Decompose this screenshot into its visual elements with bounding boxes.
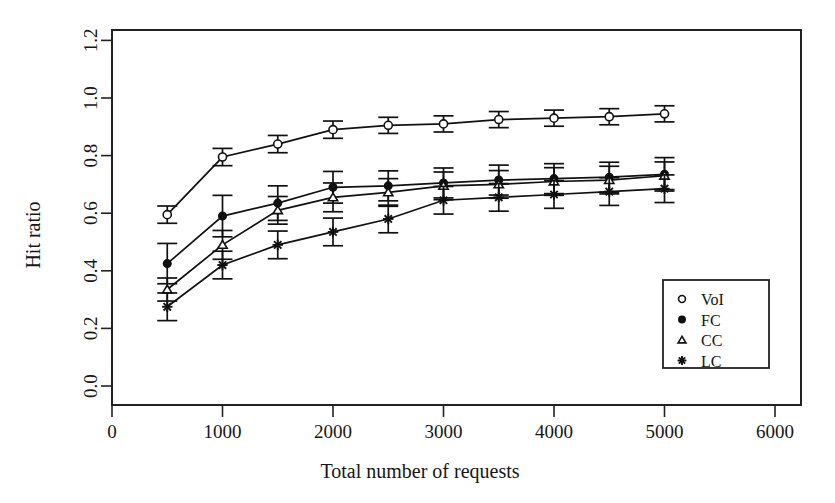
data-point-marker-open-circle <box>660 110 668 118</box>
x-tick-label: 4000 <box>535 421 573 442</box>
legend-label: VoI <box>701 291 724 308</box>
y-tick-label: 1.2 <box>80 29 101 53</box>
y-tick-label: 1.0 <box>80 86 101 110</box>
data-point-marker-open-circle <box>495 116 503 124</box>
data-point-marker-asterisk <box>273 240 283 250</box>
data-point-marker-open-circle <box>679 296 686 303</box>
x-tick-label: 0 <box>107 421 117 442</box>
data-point-marker-asterisk <box>659 184 669 194</box>
hit-ratio-line-chart: 0100020003000400050006000 0.00.20.40.60.… <box>0 0 835 503</box>
data-point-marker-asterisk <box>162 302 172 312</box>
data-point-marker-filled-circle <box>219 212 226 219</box>
data-point-marker-open-circle <box>550 114 558 122</box>
y-tick-label: 0.0 <box>80 374 101 398</box>
data-point-marker-open-circle <box>163 211 171 219</box>
x-tick-label: 2000 <box>314 421 352 442</box>
data-point-marker-open-circle <box>274 140 282 148</box>
data-point-marker-open-circle <box>329 126 337 134</box>
x-tick-label: 5000 <box>646 421 684 442</box>
data-point-marker-open-circle <box>218 153 226 161</box>
data-point-marker-asterisk <box>328 227 338 237</box>
chart-background <box>0 0 835 503</box>
chart-legend[interactable]: VoIFCCCLC <box>663 280 769 370</box>
data-point-marker-asterisk <box>549 189 559 199</box>
chart-figure: 0100020003000400050006000 0.00.20.40.60.… <box>0 0 835 503</box>
x-tick-label: 6000 <box>756 421 794 442</box>
y-tick-label: 0.4 <box>80 258 101 282</box>
legend-label: FC <box>701 312 721 329</box>
y-tick-label: 0.2 <box>80 317 101 341</box>
data-point-marker-asterisk <box>494 192 504 202</box>
data-point-marker-open-circle <box>384 121 392 129</box>
y-tick-label: 0.6 <box>80 201 101 225</box>
x-axis-title: Total number of requests <box>320 460 519 483</box>
y-tick-label: 0.8 <box>80 144 101 168</box>
data-point-marker-filled-circle <box>164 260 171 267</box>
x-tick-label: 3000 <box>425 421 463 442</box>
y-axis-title: Hit ratio <box>22 201 44 268</box>
data-point-marker-asterisk <box>217 260 227 270</box>
legend-label: LC <box>701 353 721 370</box>
data-point-marker-asterisk <box>383 214 393 224</box>
data-point-marker-open-circle <box>439 120 447 128</box>
data-point-marker-asterisk <box>438 195 448 205</box>
legend-label: CC <box>701 332 722 349</box>
data-point-marker-asterisk <box>604 186 614 196</box>
data-point-marker-asterisk <box>678 356 687 365</box>
data-point-marker-open-circle <box>605 113 613 121</box>
data-point-marker-filled-circle <box>679 316 685 322</box>
x-tick-label: 1000 <box>204 421 242 442</box>
